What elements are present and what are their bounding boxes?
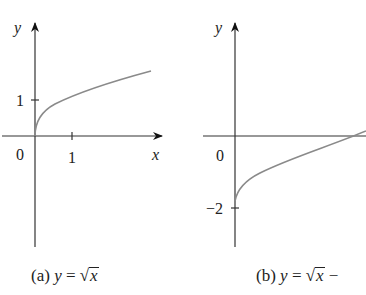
- panel-a-x-label: x: [151, 146, 159, 163]
- panel-b-caption-radicand: x: [315, 267, 325, 284]
- panel-b-caption-var: y: [280, 266, 288, 285]
- panel-a-caption: (a) y = √x: [31, 266, 99, 286]
- panel-a-caption-var: y: [54, 266, 62, 285]
- panel-a-caption-eq: =: [62, 266, 80, 285]
- panel-b-origin-label: 0: [216, 147, 224, 164]
- panel-a-origin-label: 0: [16, 146, 24, 163]
- panel-b-y-label: y: [213, 19, 223, 37]
- panel-a: [2, 23, 162, 247]
- panel-b: [203, 23, 366, 247]
- panel-b-y-tick-label: −2: [206, 200, 223, 217]
- figure-canvas: y x 0 1 1 y 0 −2: [0, 0, 366, 295]
- panel-b-caption-eq: =: [288, 266, 306, 285]
- sqrt-symbol: √x: [80, 266, 99, 286]
- panel-b-caption-prefix: (b): [256, 266, 280, 285]
- panel-a-caption-radicand: x: [89, 267, 99, 284]
- panel-a-caption-prefix: (a): [31, 266, 54, 285]
- panel-a-y-tick-label: 1: [16, 92, 24, 109]
- panel-b-caption-suffix: −: [325, 266, 339, 285]
- panel-a-x-tick-label: 1: [68, 149, 76, 166]
- panel-b-caption: (b) y = √x −: [256, 266, 338, 286]
- panel-a-curve: [35, 71, 151, 136]
- sqrt-symbol: √x: [306, 266, 325, 286]
- panel-a-y-label: y: [12, 19, 22, 37]
- panel-b-curve: [235, 131, 366, 201]
